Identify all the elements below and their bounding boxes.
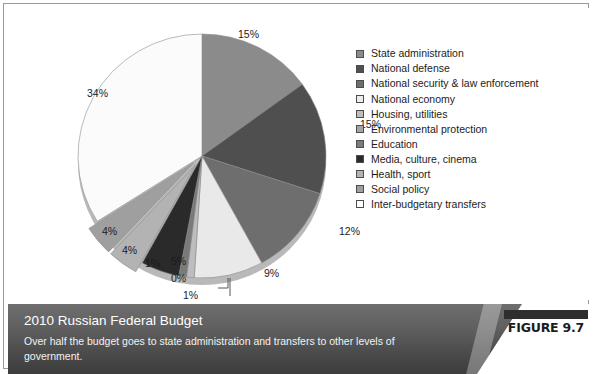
legend-item: National defense (356, 61, 588, 76)
legend-swatch-icon (356, 80, 364, 88)
figure-frame: 15%15%12%9%34%4%4%1%5%0%1% State adminis… (3, 3, 589, 369)
pie-data-label: 4% (122, 244, 137, 256)
legend-item: Environmental protection (356, 121, 588, 136)
legend-item: National economy (356, 91, 588, 106)
legend-swatch-icon (356, 95, 364, 103)
legend-item: Media, culture, cinema (356, 152, 588, 167)
pie-chart-svg (60, 16, 344, 296)
pie-data-label: 1% (183, 289, 198, 301)
legend-item-label: Social policy (371, 184, 429, 195)
legend-item-label: Health, sport (371, 169, 431, 180)
legend-item-label: National economy (371, 94, 455, 105)
legend-swatch-icon (356, 110, 364, 118)
legend-swatch-icon (356, 125, 364, 133)
caption-text-block: 2010 Russian Federal Budget Over half th… (24, 313, 444, 364)
legend-item: Housing, utilities (356, 106, 588, 121)
legend-swatch-icon (356, 200, 364, 208)
pie-data-label: 15% (238, 28, 259, 40)
pie-slices (78, 34, 326, 278)
pie-data-label: 9% (264, 267, 279, 279)
figure-title: 2010 Russian Federal Budget (24, 313, 444, 330)
pie-data-label: 12% (339, 225, 360, 237)
legend-swatch-icon (356, 170, 364, 178)
figure-number-badge: FIGURE 9.7 (504, 310, 588, 335)
legend-swatch-icon (356, 155, 364, 163)
legend-item: Social policy (356, 182, 588, 197)
pie-data-label: 0% (171, 272, 186, 284)
pie-data-label: 5% (171, 255, 186, 267)
legend-item-label: Inter-budgetary transfers (371, 199, 486, 210)
legend-swatch-icon (356, 50, 364, 58)
pie-data-label: 4% (102, 225, 117, 237)
figure-badge-rule (504, 310, 588, 319)
figure-number-label: FIGURE 9.7 (504, 321, 588, 335)
legend-item-label: Environmental protection (371, 124, 487, 135)
legend-item: National security & law enforcement (356, 76, 588, 91)
legend-swatch-icon (356, 140, 364, 148)
legend-item-label: National defense (371, 63, 450, 74)
legend-item-label: National security & law enforcement (371, 78, 539, 89)
chart-area: 15%15%12%9%34%4%4%1%5%0%1% State adminis… (8, 8, 592, 300)
legend-item-label: Housing, utilities (371, 109, 447, 120)
caption-bar: 2010 Russian Federal Budget Over half th… (8, 304, 594, 374)
legend-swatch-icon (356, 185, 364, 193)
legend-item: Inter-budgetary transfers (356, 197, 588, 212)
legend-item-label: Media, culture, cinema (371, 154, 477, 165)
legend-item: Education (356, 137, 588, 152)
legend-swatch-icon (356, 65, 364, 73)
pie-data-label: 1% (145, 257, 160, 269)
pie-data-label: 34% (87, 87, 108, 99)
pie-chart: 15%15%12%9%34%4%4%1%5%0%1% (60, 16, 344, 296)
chart-legend: State administrationNational defenseNati… (356, 46, 588, 212)
legend-item-label: Education (371, 139, 418, 150)
legend-item: State administration (356, 46, 588, 61)
legend-item: Health, sport (356, 167, 588, 182)
figure-description: Over half the budget goes to state admin… (24, 334, 444, 364)
legend-item-label: State administration (371, 48, 464, 59)
figure-container: 15%15%12%9%34%4%4%1%5%0%1% State adminis… (0, 0, 594, 374)
